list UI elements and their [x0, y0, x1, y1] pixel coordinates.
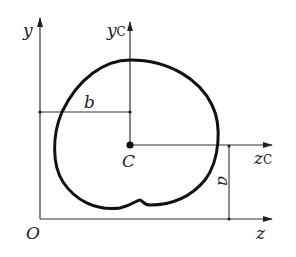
centroid-label: C [122, 151, 135, 171]
a-dimension-tick-top [227, 144, 230, 147]
zc-sub: C [263, 153, 272, 167]
yc-main: y [106, 20, 117, 40]
y-axis-label: y [22, 20, 33, 40]
origin-label: O [26, 223, 40, 243]
yc-sub: C [117, 25, 126, 39]
diagram-svg: y z O yC zC C b a [0, 0, 296, 257]
cross-section-shape [55, 60, 219, 208]
a-dimension-label: a [214, 176, 234, 186]
b-dimension-tick-left [38, 110, 41, 113]
diagram-canvas: y z O yC zC C b a [0, 0, 296, 257]
yc-axis-label: yC [106, 20, 126, 40]
b-dimension-tick-right [128, 110, 131, 113]
zc-axis-label: zC [253, 148, 272, 168]
centroid-point [126, 141, 133, 148]
z-axis-label: z [255, 223, 266, 243]
b-dimension-label: b [84, 92, 95, 112]
a-dimension-tick-bottom [227, 217, 230, 220]
